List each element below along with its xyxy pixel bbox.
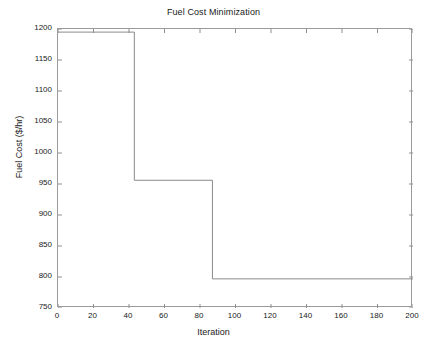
x-tick-label: 40 [108,312,148,320]
y-tick-label: 750 [22,303,52,311]
x-tick-label: 0 [37,312,77,320]
plot-svg [58,29,413,308]
y-tick-label: 800 [22,272,52,280]
plot-area [57,28,412,307]
x-tick-label: 60 [144,312,184,320]
y-tick-label: 850 [22,241,52,249]
x-tick-label: 180 [357,312,397,320]
axis-tick-marks [58,29,413,308]
x-tick-label: 200 [392,312,427,320]
y-axis-tick-labels: 75080085090095010001050110011501200 [18,0,52,349]
y-tick-label: 950 [22,179,52,187]
y-tick-label: 1000 [22,148,52,156]
y-tick-label: 900 [22,210,52,218]
x-tick-label: 80 [179,312,219,320]
x-tick-label: 100 [215,312,255,320]
y-tick-label: 1100 [22,86,52,94]
x-tick-label: 20 [73,312,113,320]
y-tick-label: 1050 [22,117,52,125]
x-axis-label: Iteration [0,327,427,337]
x-axis-tick-labels: 020406080100120140160180200 [0,312,427,326]
x-tick-label: 140 [286,312,326,320]
y-tick-label: 1200 [22,24,52,32]
figure-canvas: Fuel Cost Minimization Fuel Cost ($/hr) … [0,0,427,349]
y-tick-label: 1150 [22,55,52,63]
x-tick-label: 160 [321,312,361,320]
data-series-line [58,32,413,279]
chart-title: Fuel Cost Minimization [0,6,427,18]
x-tick-label: 120 [250,312,290,320]
